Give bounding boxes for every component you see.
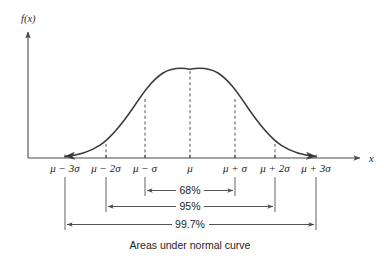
y-axis-label: f(x) (21, 13, 36, 25)
measure-label-95: 95% (179, 200, 200, 212)
x-axis-label: x (368, 153, 374, 164)
tick-label-mu-minus-sigma: μ − σ (132, 162, 157, 174)
tick-label-mu-plus-2sigma: μ + 2σ (259, 162, 290, 174)
normal-distribution-diagram: f(x) x μ − 3σ μ − 2σ μ − σ μ μ + σ μ + 2… (0, 0, 384, 263)
measure-label-68: 68% (179, 184, 200, 196)
normal-curve-figure: f(x) x μ − 3σ μ − 2σ μ − σ μ μ + σ μ + 2… (0, 0, 384, 263)
tick-label-mu-plus-sigma: μ + σ (222, 162, 247, 174)
tick-label-mu: μ (186, 162, 193, 174)
figure-caption: Areas under normal curve (130, 239, 251, 251)
tick-label-mu-minus-3sigma: μ − 3σ (49, 162, 80, 174)
tick-label-mu-minus-2sigma: μ − 2σ (90, 162, 121, 174)
measure-label-997: 99.7% (175, 218, 205, 230)
tick-label-mu-plus-3sigma: μ + 3σ (300, 162, 331, 174)
